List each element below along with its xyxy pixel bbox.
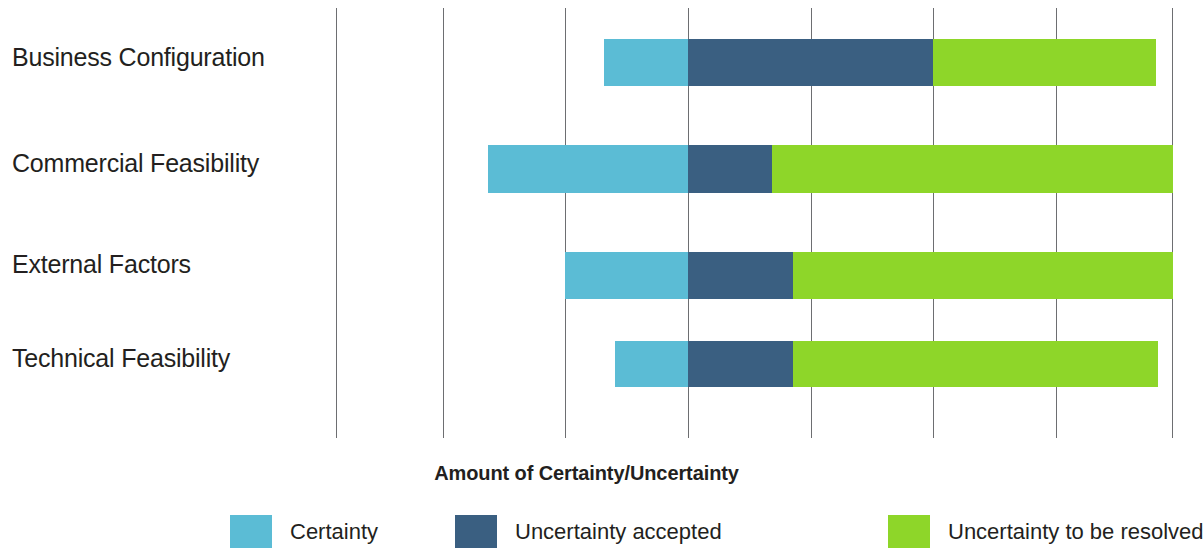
gridline-7	[1172, 8, 1173, 438]
bar-segment-certainty	[615, 341, 688, 387]
bar-segment-uncertainty-to-be-resolved	[793, 252, 1173, 299]
legend-swatch-uncertainty-to-be-resolved	[888, 515, 930, 548]
bar-segment-uncertainty-to-be-resolved	[772, 145, 1173, 193]
bar-external-factors	[565, 252, 1173, 299]
legend-item-uncertainty-to-be-resolved: Uncertainty to be resolved	[888, 515, 1204, 548]
bar-segment-uncertainty-accepted	[688, 39, 933, 86]
legend-swatch-certainty	[230, 515, 272, 548]
legend-label-uncertainty-to-be-resolved: Uncertainty to be resolved	[948, 519, 1204, 545]
category-label-business-configuration: Business Configuration	[12, 43, 328, 72]
chart-legend: Certainty Uncertainty accepted Uncertain…	[0, 515, 1173, 550]
bar-business-configuration	[604, 39, 1156, 86]
gridline-1	[443, 8, 444, 438]
bar-technical-feasibility	[615, 341, 1158, 387]
legend-label-certainty: Certainty	[290, 519, 378, 545]
bar-segment-uncertainty-to-be-resolved	[933, 39, 1156, 86]
bar-segment-certainty	[604, 39, 688, 86]
bar-segment-certainty	[488, 145, 688, 193]
bar-segment-uncertainty-accepted	[688, 341, 793, 387]
category-label-external-factors: External Factors	[12, 250, 328, 279]
category-label-commercial-feasibility: Commercial Feasibility	[12, 149, 328, 178]
legend-item-uncertainty-accepted: Uncertainty accepted	[455, 515, 722, 548]
gridline-2	[565, 8, 566, 438]
bar-segment-uncertainty-accepted	[688, 145, 772, 193]
bar-segment-uncertainty-accepted	[688, 252, 793, 299]
legend-label-uncertainty-accepted: Uncertainty accepted	[515, 519, 722, 545]
legend-item-certainty: Certainty	[230, 515, 378, 548]
category-label-technical-feasibility: Technical Feasibility	[12, 344, 328, 373]
bar-segment-certainty	[565, 252, 688, 299]
bar-segment-uncertainty-to-be-resolved	[793, 341, 1158, 387]
legend-swatch-uncertainty-accepted	[455, 515, 497, 548]
gridline-0	[336, 8, 337, 438]
bar-commercial-feasibility	[488, 145, 1173, 193]
x-axis-title: Amount of Certainty/Uncertainty	[0, 462, 1173, 485]
